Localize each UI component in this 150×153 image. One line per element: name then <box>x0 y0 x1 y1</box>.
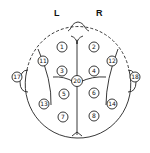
electrode-label: 8 <box>92 112 96 119</box>
electrode-label: 5 <box>62 90 66 97</box>
electrode-1: 1 <box>57 42 67 52</box>
electrode-label: 20 <box>73 77 81 84</box>
left-central-curve <box>53 77 74 82</box>
electrode-5: 5 <box>59 89 69 99</box>
electrode-label: 14 <box>108 100 116 107</box>
electrode-label: 11 <box>39 57 47 64</box>
electrode-18: 18 <box>130 72 140 82</box>
head-diagram: 1211123420561314781718 <box>0 0 150 153</box>
electrode-4: 4 <box>89 66 99 76</box>
electrode-label: 7 <box>61 113 65 120</box>
electrode-13: 13 <box>39 99 49 109</box>
electrode-label: 12 <box>108 57 116 64</box>
electrode-8: 8 <box>89 111 99 121</box>
electrode-label: 6 <box>92 89 96 96</box>
right-central-curve <box>80 77 106 82</box>
electrode-label: 4 <box>92 67 96 74</box>
electrode-label: 13 <box>40 100 48 107</box>
electrode-11: 11 <box>38 56 48 66</box>
electrode-6: 6 <box>89 88 99 98</box>
electrode-label: 3 <box>60 67 64 74</box>
electrode-14: 14 <box>107 99 117 109</box>
electrode-label: 17 <box>13 73 21 80</box>
electrode-label: 2 <box>92 43 96 50</box>
electrode-7: 7 <box>58 112 68 122</box>
electrode-label: 18 <box>131 73 139 80</box>
nose-outline <box>68 22 89 31</box>
electrode-12: 12 <box>107 56 117 66</box>
electrode-3: 3 <box>57 66 67 76</box>
electrode-2: 2 <box>89 42 99 52</box>
electrode-17: 17 <box>12 72 22 82</box>
left-ear <box>20 70 28 92</box>
electrode-20: 20 <box>72 76 83 87</box>
electrode-label: 1 <box>60 43 64 50</box>
